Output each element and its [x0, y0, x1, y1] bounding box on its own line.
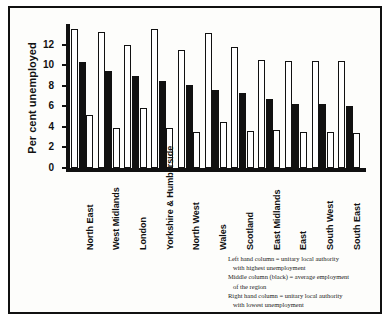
bar-group	[124, 24, 146, 168]
x-tick-label: Wales	[219, 224, 228, 250]
bar-group	[338, 24, 360, 168]
x-tick-label: East Midlands	[273, 189, 282, 250]
bar-lowest	[220, 122, 227, 168]
bar-lowest	[273, 130, 280, 168]
legend-line-2-a: Middle column (black) = average employme…	[228, 273, 349, 280]
bar-lowest	[300, 132, 307, 168]
bar-average	[266, 99, 273, 168]
bar-highest	[312, 61, 319, 168]
bar-average	[346, 106, 353, 168]
bar-average	[292, 104, 299, 168]
x-tick-label: North West	[192, 202, 201, 250]
bar-lowest	[193, 132, 200, 168]
y-axis-title-text: Per cent unemployed	[26, 42, 38, 153]
y-tick-mark	[62, 126, 66, 128]
y-tick-label: 0	[34, 163, 54, 173]
y-tick-mark	[62, 105, 66, 107]
bar-group	[178, 24, 200, 168]
x-tick-label: London	[139, 217, 148, 250]
bar-group	[205, 24, 227, 168]
bar-average	[105, 71, 112, 168]
chart-legend: Left hand column = unitary local authori…	[228, 254, 388, 309]
bar-lowest	[86, 115, 93, 168]
bar-lowest	[113, 128, 120, 168]
legend-line-3-b: with lowest unemployment	[228, 300, 388, 309]
bar-average	[186, 85, 193, 168]
bar-group	[312, 24, 334, 168]
y-tick-label: 10	[34, 60, 54, 70]
legend-line-3: Right hand column = unitary local author…	[228, 291, 388, 309]
bar-average	[319, 104, 326, 168]
legend-line-1: Left hand column = unitary local authori…	[228, 254, 388, 272]
y-tick-mark	[62, 167, 66, 169]
x-tick-label: West Midlands	[112, 187, 121, 250]
bar-group	[258, 24, 280, 168]
bar-highest	[71, 29, 78, 168]
y-tick-label: 8	[34, 81, 54, 91]
bar-group	[98, 24, 120, 168]
bar-highest	[98, 32, 105, 168]
y-axis-line	[66, 24, 70, 172]
bar-average	[239, 93, 246, 168]
bar-lowest	[247, 131, 254, 168]
bar-highest	[338, 61, 345, 168]
bar-lowest	[353, 133, 360, 168]
y-tick-label: 4	[34, 122, 54, 132]
bar-average	[132, 76, 139, 168]
y-tick-mark	[62, 44, 66, 46]
y-tick-mark	[62, 85, 66, 87]
bar-highest	[124, 45, 131, 168]
bar-average	[79, 62, 86, 168]
x-tick-label: South West	[326, 201, 335, 250]
plot-area: 024681012	[66, 24, 366, 172]
y-tick-mark	[62, 64, 66, 66]
bar-group	[71, 24, 93, 168]
chart-frame: Per cent unemployed 024681012 North East…	[8, 6, 382, 314]
legend-line-2: Middle column (black) = average employme…	[228, 272, 388, 290]
x-tick-label: Scotland	[246, 212, 255, 250]
x-axis-line	[66, 168, 366, 172]
bar-highest	[205, 33, 212, 168]
x-tick-label: East	[299, 231, 308, 250]
y-tick-label: 6	[34, 101, 54, 111]
x-tick-label: South East	[353, 203, 362, 250]
legend-line-1-b: with highest unemployment	[228, 263, 388, 272]
legend-line-1-a: Left hand column = unitary local authori…	[228, 255, 339, 262]
legend-line-2-b: of the region	[228, 282, 388, 291]
x-tick-label: North East	[86, 204, 95, 250]
y-tick-label: 2	[34, 142, 54, 152]
bar-highest	[151, 29, 158, 168]
x-tick-label: Yorkshire & Humberside	[166, 146, 175, 250]
legend-line-3-a: Right hand column = unitary local author…	[228, 292, 343, 299]
bar-average	[212, 90, 219, 168]
bar-group	[231, 24, 253, 168]
y-tick-mark	[62, 146, 66, 148]
y-tick-label: 12	[34, 40, 54, 50]
bar-group	[285, 24, 307, 168]
bar-highest	[178, 50, 185, 168]
bar-highest	[285, 61, 292, 168]
bar-lowest	[140, 108, 147, 168]
bar-lowest	[327, 132, 334, 168]
bar-highest	[231, 47, 238, 168]
bar-highest	[258, 60, 265, 168]
